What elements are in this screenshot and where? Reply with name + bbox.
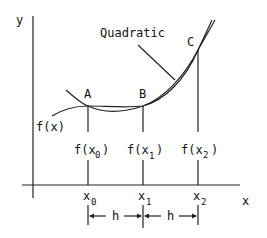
x1-label: x 1: [138, 189, 151, 207]
function-label: f(x): [36, 120, 65, 134]
f-x2-label: f(x 2 ): [181, 143, 218, 160]
h1-arrow-right-head: [137, 214, 142, 219]
svg-text:0: 0: [95, 150, 100, 160]
svg-text:f(x: f(x: [127, 143, 149, 157]
svg-text:x: x: [193, 189, 200, 203]
svg-text:): ): [156, 143, 163, 157]
svg-text:2: 2: [203, 150, 208, 160]
quadratic-label: Quadratic: [100, 26, 165, 40]
x0-label: x 0: [83, 189, 96, 207]
y-axis-label: y: [16, 13, 23, 27]
svg-text:): ): [102, 143, 109, 157]
h1-arrow-left-head: [89, 214, 94, 219]
h2-arrow-left-head: [144, 214, 149, 219]
quadratic-interpolation-diagram: y x Quadratic f(x) A B C f(x 0 ) f(x 1 )…: [0, 0, 267, 238]
svg-text:): ): [211, 143, 218, 157]
point-c-label: C: [187, 35, 194, 49]
svg-text:1: 1: [146, 197, 151, 207]
h2-label: h: [167, 209, 174, 223]
h2-arrow-right-head: [192, 214, 197, 219]
svg-text:x: x: [83, 189, 90, 203]
x-axis-label: x: [242, 194, 249, 208]
x2-label: x 2: [193, 189, 206, 207]
quadratic-pointer-line: [138, 45, 175, 80]
svg-text:f(x: f(x: [74, 143, 96, 157]
svg-text:2: 2: [201, 197, 206, 207]
f-x1-label: f(x 1 ): [127, 143, 163, 161]
svg-text:x: x: [138, 189, 145, 203]
point-b-label: B: [139, 87, 146, 101]
f-x0-label: f(x 0 ): [74, 143, 109, 160]
svg-text:0: 0: [91, 197, 96, 207]
h1-label: h: [112, 209, 119, 223]
svg-text:f(x: f(x: [181, 143, 203, 157]
svg-text:1: 1: [149, 151, 154, 161]
point-a-label: A: [84, 87, 92, 101]
